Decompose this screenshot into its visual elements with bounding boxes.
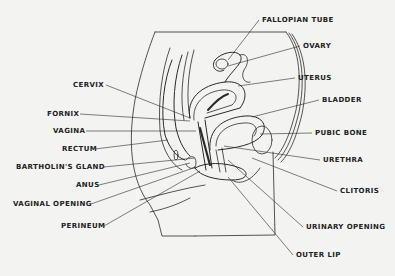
leader-line-urethra [224,146,320,160]
leader-line-urinary-opening [228,160,303,227]
label-urinary-opening: URINARY OPENING [306,223,385,231]
leader-line-bladder [252,100,319,117]
label-cervix: CERVIX [73,81,103,89]
label-perineum: PERINEUM [61,222,101,230]
label-fornix: FORNIX [47,110,77,118]
label-fallopian-tube: FALLOPIAN TUBE [262,16,334,24]
leader-line-fallopian-tube [228,20,259,60]
leader-lines [80,20,337,255]
label-rectum: RECTUM [62,145,92,153]
label-vagina: VAGINA [53,127,83,135]
label-pubic-bone: PUBIC BONE [315,129,367,137]
leader-line-cervix [106,85,190,118]
leader-line-pubic-bone [260,133,312,134]
label-clitoris: CLITORIS [340,187,379,195]
label-vaginal-opening: VAGINAL OPENING [13,200,88,208]
label-urethra: URETHRA [323,156,363,164]
anatomy-diagram [0,0,395,276]
label-uterus: UTERUS [298,74,332,82]
leader-line-perineum [104,171,200,226]
label-bladder: BLADDER [322,96,362,104]
leader-line-bartholins-gland [104,158,195,167]
leader-line-ovary [228,46,300,66]
label-outer-lip: OUTER LIP [296,251,341,259]
label-bartholins-gland: BARTHOLIN'S GLAND [16,163,101,171]
leader-line-vaginal-opening [91,167,196,204]
label-anus: ANUS [76,181,96,189]
label-ovary: OVARY [303,42,331,50]
leader-line-fornix [80,114,190,121]
